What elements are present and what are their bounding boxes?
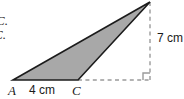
geometry-figure-page: C. C. A C 4 cm 7 cm — [0, 0, 184, 99]
right-angle-marker-icon — [143, 73, 150, 80]
triangle-diagram-svg — [0, 0, 184, 99]
base-dimension-label: 4 cm — [29, 84, 55, 96]
vertex-label-c: C — [72, 84, 81, 97]
height-dimension-label: 7 cm — [157, 32, 183, 44]
vertex-label-a: A — [8, 84, 16, 97]
statement-fragment-line-1: C. — [0, 14, 8, 27]
shaded-triangle — [13, 2, 150, 80]
statement-fragment-line-2: C. — [0, 28, 6, 41]
